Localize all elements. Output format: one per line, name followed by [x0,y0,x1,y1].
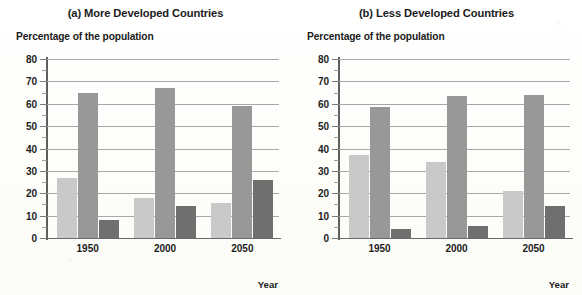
bar-b-1950-series-3 [391,229,411,238]
bar-b-2000-series-3 [468,226,488,238]
y-tick-label-a-60: 60 [26,98,37,109]
y-tick-label-a-0: 0 [31,233,37,244]
y-minor-tick-b-5 [334,227,339,228]
y-minor-tick-b-25 [334,182,339,183]
plot-area-a: 80706050403020100195020002050 [47,59,279,238]
x-axis-title-a: Year [258,279,278,290]
panel-title-a: (a) More Developed Countries [0,7,291,19]
y-tick-label-b-50: 50 [318,121,329,132]
y-minor-tick-a-75 [42,70,47,71]
y-minor-tick-b-35 [334,160,339,161]
bar-a-2000-series-1 [134,198,154,238]
y-tick-a-40 [40,149,47,150]
two-panel-bar-chart-figure: (a) More Developed Countries Percentage … [0,0,582,295]
y-tick-a-60 [40,104,47,105]
y-tick-b-80 [332,59,339,60]
bar-b-1950-series-1 [349,155,369,238]
bar-a-2000-series-3 [176,206,196,238]
y-minor-tick-a-45 [42,137,47,138]
y-tick-b-30 [332,171,339,172]
y-tick-a-80 [40,59,47,60]
bar-group-b-2050: 2050 [503,59,565,238]
y-minor-tick-a-25 [42,182,47,183]
y-tick-label-b-0: 0 [323,233,329,244]
y-tick-b-70 [332,81,339,82]
bar-group-a-2050: 2050 [211,59,273,238]
bar-group-a-1950: 1950 [57,59,119,238]
chart-panel-less-developed: (b) Less Developed Countries Percentage … [291,0,582,295]
bar-a-2000-series-2 [155,88,175,238]
y-tick-label-b-20: 20 [318,188,329,199]
y-minor-tick-a-15 [42,204,47,205]
y-tick-label-b-60: 60 [318,98,329,109]
y-minor-tick-a-35 [42,160,47,161]
y-tick-label-a-70: 70 [26,76,37,87]
bar-b-1950-series-2 [370,107,390,238]
panel-title-b: (b) Less Developed Countries [291,7,582,19]
y-tick-a-50 [40,126,47,127]
plot-area-b: 80706050403020100195020002050 [339,59,570,238]
y-tick-a-20 [40,193,47,194]
x-tick-label-b-2000: 2000 [420,243,494,254]
bar-a-2050-series-2 [232,106,252,238]
y-tick-b-10 [332,216,339,217]
chart-panel-more-developed: (a) More Developed Countries Percentage … [0,0,291,295]
y-tick-b-60 [332,104,339,105]
y-tick-label-b-80: 80 [318,54,329,65]
bar-group-b-2000: 2000 [426,59,488,238]
bar-a-2050-series-3 [253,180,273,238]
y-tick-label-a-50: 50 [26,121,37,132]
bar-a-1950-series-1 [57,178,77,238]
y-minor-tick-a-55 [42,115,47,116]
x-tick-label-a-2050: 2050 [205,243,279,254]
y-tick-label-a-80: 80 [26,54,37,65]
x-axis-title-b: Year [549,279,569,290]
y-minor-tick-a-65 [42,93,47,94]
y-tick-label-a-20: 20 [26,188,37,199]
y-minor-tick-b-15 [334,204,339,205]
x-tick-label-b-2050: 2050 [497,243,571,254]
y-minor-tick-b-45 [334,137,339,138]
bar-group-b-1950: 1950 [349,59,411,238]
x-tick-label-a-2000: 2000 [128,243,202,254]
y-tick-a-30 [40,171,47,172]
x-tick-label-a-1950: 1950 [51,243,125,254]
y-tick-label-b-70: 70 [318,76,329,87]
y-axis-title-b: Percentage of the population [307,31,445,42]
y-tick-label-b-40: 40 [318,143,329,154]
y-tick-label-b-10: 10 [318,210,329,221]
y-tick-b-50 [332,126,339,127]
bar-b-2000-series-2 [447,96,467,238]
y-axis-title-a: Percentage of the population [16,31,154,42]
y-tick-label-b-30: 30 [318,165,329,176]
bar-group-a-2000: 2000 [134,59,196,238]
y-tick-a-10 [40,216,47,217]
bar-a-1950-series-3 [99,220,119,238]
y-minor-tick-b-65 [334,93,339,94]
y-tick-b-0 [332,238,339,239]
y-minor-tick-a-5 [42,227,47,228]
bar-b-2050-series-1 [503,191,523,238]
x-tick-label-b-1950: 1950 [343,243,417,254]
y-tick-b-40 [332,149,339,150]
bar-b-2050-series-3 [545,206,565,238]
y-minor-tick-b-75 [334,70,339,71]
y-tick-label-a-10: 10 [26,210,37,221]
y-tick-a-70 [40,81,47,82]
y-tick-label-a-40: 40 [26,143,37,154]
bar-a-2050-series-1 [211,203,231,238]
y-minor-tick-b-55 [334,115,339,116]
bar-b-2000-series-1 [426,162,446,238]
y-tick-b-20 [332,193,339,194]
y-tick-a-0 [40,238,47,239]
bar-a-1950-series-2 [78,93,98,238]
y-tick-label-a-30: 30 [26,165,37,176]
bar-b-2050-series-2 [524,95,544,238]
